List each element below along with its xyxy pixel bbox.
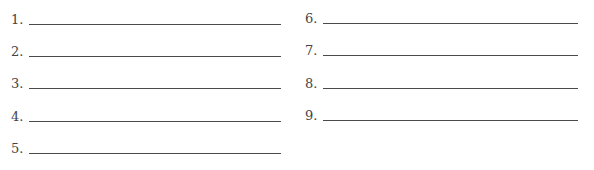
blank-6[interactable]: 6. [305, 7, 578, 27]
blank-1[interactable]: 1. [11, 8, 281, 28]
blank-3[interactable]: 3. [11, 72, 281, 92]
blank-number: 8. [305, 76, 317, 92]
blank-number: 1. [11, 12, 23, 28]
answer-line[interactable] [323, 120, 578, 121]
blank-7[interactable]: 7. [305, 39, 578, 59]
blank-number: 4. [11, 109, 23, 125]
blank-5[interactable]: 5. [11, 137, 281, 157]
blank-number: 9. [305, 108, 317, 124]
answer-line[interactable] [29, 121, 281, 122]
answer-line[interactable] [29, 153, 281, 154]
answer-line[interactable] [29, 56, 281, 57]
answer-line[interactable] [29, 24, 281, 25]
answer-line[interactable] [323, 88, 578, 89]
blank-number: 3. [11, 76, 23, 92]
answer-line[interactable] [323, 55, 578, 56]
blank-number: 5. [11, 141, 23, 157]
blank-4[interactable]: 4. [11, 105, 281, 125]
blank-8[interactable]: 8. [305, 72, 578, 92]
answer-line[interactable] [323, 23, 578, 24]
blank-2[interactable]: 2. [11, 40, 281, 60]
answer-line[interactable] [29, 88, 281, 89]
blank-number: 2. [11, 44, 23, 60]
blank-number: 6. [305, 11, 317, 27]
blank-9[interactable]: 9. [305, 104, 578, 124]
blank-number: 7. [305, 43, 317, 59]
